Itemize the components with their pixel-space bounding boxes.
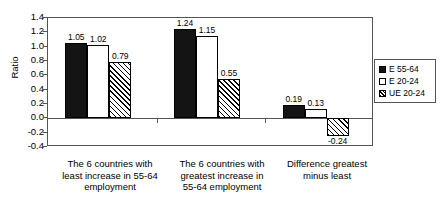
y-axis-tick-label: -0.2 xyxy=(20,127,44,137)
y-axis-tick-mark xyxy=(43,17,47,18)
y-axis-tick-label: 0.0 xyxy=(20,112,44,122)
y-axis-tick-label: 0.2 xyxy=(20,98,44,108)
y-axis-tick-mark xyxy=(43,89,47,90)
y-axis-tick-label: 0.8 xyxy=(20,55,44,65)
legend-item-label: E 20-24 xyxy=(389,77,419,86)
x-axis-group-tick xyxy=(157,118,158,123)
bar xyxy=(65,43,87,118)
y-axis-title: Ratio xyxy=(9,42,20,94)
y-axis-tick-label: 0.6 xyxy=(20,69,44,79)
x-axis-category-label-line: The 6 countries with xyxy=(163,158,281,170)
x-axis-category-label: The 6 countries withleast increase in 55… xyxy=(46,158,174,193)
y-axis-tick-label: 1.2 xyxy=(20,26,44,36)
bar xyxy=(174,29,196,118)
x-axis-category-label-line: minus least xyxy=(272,170,382,182)
bar-chart: Ratio 1.41.21.00.80.60.40.20.0-0.2-0.4 1… xyxy=(0,0,443,208)
y-axis-tick-label: 1.0 xyxy=(20,41,44,51)
legend-item: E 20-24 xyxy=(379,75,432,87)
legend-swatch-icon xyxy=(379,66,386,73)
y-axis-tick-mark xyxy=(43,103,47,104)
y-axis-tick-mark xyxy=(43,31,47,32)
x-axis-category-label: Difference greatestminus least xyxy=(272,158,382,181)
x-axis-category-label-line: Difference greatest xyxy=(272,158,382,170)
x-axis-category-label-line: 55-64 employment xyxy=(163,181,281,193)
bar xyxy=(305,109,327,118)
x-axis-group-tick xyxy=(265,118,266,123)
bar-value-label: 1.15 xyxy=(191,26,223,35)
bar-value-label: 0.55 xyxy=(213,69,245,78)
x-axis-category-label-line: greatest increase in xyxy=(163,170,281,182)
bar xyxy=(327,118,349,135)
bar-value-label: 1.02 xyxy=(82,35,114,44)
y-axis-tick-mark xyxy=(43,74,47,75)
zero-baseline xyxy=(48,118,372,119)
legend-swatch-icon xyxy=(379,78,386,85)
legend-swatch-icon xyxy=(379,90,386,97)
y-axis-tick-mark xyxy=(43,60,47,61)
chart-legend: E 55-64E 20-24UE 20-24 xyxy=(374,59,436,103)
x-axis-category-label-line: employment xyxy=(46,181,174,193)
plot-area: 1.051.020.791.241.150.550.190.13-0.24 xyxy=(47,17,373,146)
bar-value-label: -0.24 xyxy=(322,137,354,146)
bar xyxy=(109,62,131,119)
legend-item: E 55-64 xyxy=(379,63,432,75)
x-axis-category-label-line: least increase in 55-64 xyxy=(46,170,174,182)
legend-item-label: UE 20-24 xyxy=(389,89,425,98)
y-axis-tick-labels: 1.41.21.00.80.60.40.20.0-0.2-0.4 xyxy=(20,10,44,146)
legend-item-label: E 55-64 xyxy=(389,65,419,74)
bar-value-label: 0.13 xyxy=(300,99,332,108)
y-axis-tick-mark xyxy=(43,146,47,147)
legend-item: UE 20-24 xyxy=(379,87,432,99)
y-axis-tick-mark xyxy=(43,117,47,118)
bar-value-label: 0.79 xyxy=(104,52,136,61)
y-axis-tick-mark xyxy=(43,132,47,133)
y-axis-tick-label: 1.4 xyxy=(20,12,44,22)
y-axis-tick-label: -0.4 xyxy=(20,141,44,151)
bar xyxy=(218,79,240,118)
y-axis-tick-mark xyxy=(43,46,47,47)
x-axis-category-label-line: The 6 countries with xyxy=(46,158,174,170)
x-axis-category-label: The 6 countries withgreatest increase in… xyxy=(163,158,281,193)
y-axis-tick-label: 0.4 xyxy=(20,84,44,94)
